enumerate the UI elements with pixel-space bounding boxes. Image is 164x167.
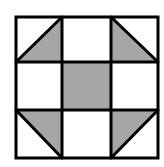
quilt-block-diagram	[0, 0, 164, 167]
center-square	[62, 62, 111, 110]
shaded-regions	[16, 17, 158, 158]
